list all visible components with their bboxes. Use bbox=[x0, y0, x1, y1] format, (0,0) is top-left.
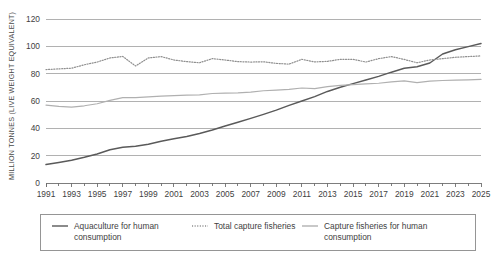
y-tick-label: 40 bbox=[31, 123, 41, 133]
legend-label: Total capture fisheries bbox=[214, 221, 295, 231]
gridlines bbox=[46, 19, 481, 187]
line-chart: MILLION TONNES (LIVE WEIGHT EQUIVALENT) … bbox=[0, 0, 502, 258]
x-tick-label: 2021 bbox=[421, 189, 440, 199]
y-tick-label: 120 bbox=[26, 14, 40, 24]
chart-legend: Aquaculture for humanconsumptionTotal ca… bbox=[40, 214, 475, 250]
x-tick-label: 2017 bbox=[369, 189, 388, 199]
x-tick-label: 2013 bbox=[318, 189, 337, 199]
y-axis-title: MILLION TONNES (LIVE WEIGHT EQUIVALENT) bbox=[7, 12, 16, 180]
x-tick-marks bbox=[46, 183, 481, 187]
legend-label: Capture fisheries for human bbox=[324, 221, 428, 231]
x-tick-label: 1993 bbox=[62, 189, 81, 199]
y-tick-label: 80 bbox=[31, 69, 41, 79]
x-tick-label: 2001 bbox=[165, 189, 184, 199]
x-tick-label: 2025 bbox=[472, 189, 491, 199]
y-axis-title-group: MILLION TONNES (LIVE WEIGHT EQUIVALENT) bbox=[7, 12, 16, 180]
x-tick-label: 1991 bbox=[37, 189, 56, 199]
x-tick-label: 1999 bbox=[139, 189, 158, 199]
chart-container: MILLION TONNES (LIVE WEIGHT EQUIVALENT) … bbox=[0, 0, 502, 258]
x-tick-label: 2005 bbox=[216, 189, 235, 199]
x-tick-label: 2011 bbox=[293, 189, 311, 199]
legend-label: consumption bbox=[324, 232, 372, 242]
legend-label: Aquaculture for human bbox=[74, 221, 159, 231]
series-line bbox=[46, 79, 481, 107]
x-tick-label: 2009 bbox=[267, 189, 286, 199]
x-tick-label: 2015 bbox=[344, 189, 363, 199]
x-tick-label: 2003 bbox=[190, 189, 209, 199]
series-lines bbox=[46, 44, 481, 165]
x-tick-label: 1995 bbox=[88, 189, 107, 199]
y-tick-label: 60 bbox=[31, 96, 41, 106]
x-tick-label: 2007 bbox=[241, 189, 260, 199]
x-tick-label: 2019 bbox=[395, 189, 414, 199]
x-tick-label: 1997 bbox=[113, 189, 132, 199]
y-tick-label: 100 bbox=[26, 41, 40, 51]
x-tick-label: 2023 bbox=[446, 189, 465, 199]
legend-label: consumption bbox=[74, 232, 122, 242]
x-tick-labels: 1991199319951997199920012003200520072009… bbox=[37, 189, 491, 199]
y-tick-label: 20 bbox=[31, 151, 41, 161]
y-tick-labels: 020406080100120 bbox=[26, 14, 40, 188]
y-tick-label: 0 bbox=[35, 178, 40, 188]
